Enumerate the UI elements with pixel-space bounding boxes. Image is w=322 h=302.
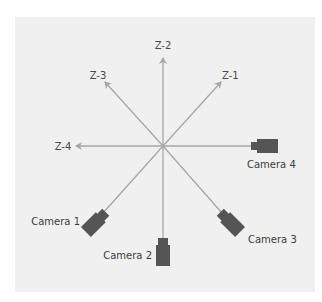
axis-z1: Z-1	[163, 70, 239, 146]
camera4-icon	[251, 139, 278, 153]
axis-z4: Z-4	[55, 141, 163, 152]
camera2-label: Camera 2	[103, 250, 152, 261]
camera3-icon	[215, 207, 245, 237]
axis-label-z1: Z-1	[222, 70, 239, 81]
camera1-label: Camera 1	[31, 216, 80, 227]
camera2-icon	[156, 238, 170, 266]
camera-axes-diagram: Z-2 Z-1 Z-3 Z-4 Camera 4 Camera 2 Camera…	[0, 0, 322, 302]
camera3-label: Camera 3	[248, 234, 297, 245]
camera3-line	[163, 146, 222, 213]
axis-label-z4: Z-4	[55, 141, 72, 152]
axis-label-z2: Z-2	[155, 40, 172, 51]
camera1-icon	[81, 207, 111, 237]
axis-label-z3: Z-3	[90, 70, 107, 81]
camera1-line	[103, 146, 163, 213]
camera4-label: Camera 4	[247, 159, 296, 170]
axis-z3: Z-3	[90, 70, 163, 146]
axis-z2: Z-2	[155, 40, 172, 146]
